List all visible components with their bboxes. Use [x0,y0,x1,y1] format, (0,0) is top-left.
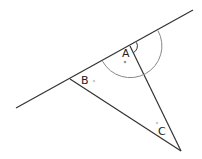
label-a: A [122,47,130,60]
point-b-dot [93,80,96,83]
side-ac [130,46,181,151]
triangle-diagram: A B C [0,0,202,159]
exterior-angle-arc [103,31,162,78]
angle-a-arc [133,42,137,52]
straight-line [16,10,193,108]
point-c-dot [156,122,159,125]
point-a-dot [124,61,127,64]
label-b: B [81,74,89,87]
label-c: C [158,125,166,138]
side-bc [70,79,181,151]
